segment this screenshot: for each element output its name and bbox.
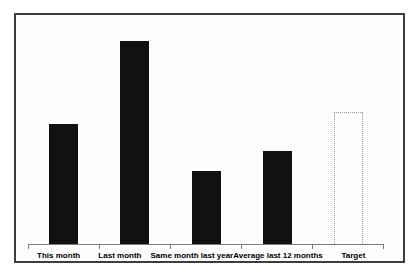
bar-slot bbox=[28, 15, 99, 244]
plot-area bbox=[28, 15, 384, 244]
axis-tick bbox=[312, 245, 313, 249]
chart-frame: This month Last month Same month last ye… bbox=[14, 13, 405, 263]
bar-slot bbox=[99, 15, 170, 244]
bar-last-month bbox=[120, 41, 149, 244]
axis-tick bbox=[170, 245, 171, 249]
bar-same-month-last-year bbox=[192, 171, 221, 244]
axis-tick bbox=[383, 245, 384, 249]
bar-slot bbox=[170, 15, 241, 244]
bar-slot bbox=[242, 15, 313, 244]
bar-chart: This month Last month Same month last ye… bbox=[0, 0, 416, 276]
axis-tick bbox=[99, 245, 100, 249]
bar-target bbox=[334, 112, 363, 244]
category-labels: This month Last month Same month last ye… bbox=[28, 251, 384, 261]
category-label-last-month: Last month bbox=[89, 251, 150, 261]
x-axis-ticks bbox=[28, 245, 384, 249]
axis-tick bbox=[28, 245, 29, 249]
bar-slot bbox=[313, 15, 384, 244]
category-label-same-month-last-year: Same month last year bbox=[151, 251, 234, 261]
category-label-this-month: This month bbox=[28, 251, 89, 261]
category-label-target: Target bbox=[323, 251, 384, 261]
bar-average-last-12-months bbox=[263, 151, 292, 244]
axis-tick bbox=[241, 245, 242, 249]
bar-this-month bbox=[49, 124, 78, 244]
category-label-average-last-12-months: Average last 12 months bbox=[233, 251, 323, 261]
